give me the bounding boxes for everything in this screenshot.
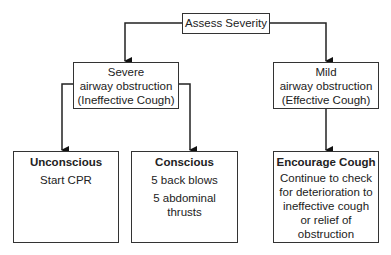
unconscious-title: Unconscious xyxy=(14,155,118,169)
mild-obstruction-node: Mild airway obstruction (Effective Cough… xyxy=(273,62,379,109)
severe-obstruction-node: Severe airway obstruction (Ineffective C… xyxy=(73,62,179,109)
unconscious-node: Unconscious Start CPR xyxy=(13,151,119,243)
mild-label-line: airway obstruction xyxy=(274,79,378,93)
mild-label-line: (Effective Cough) xyxy=(274,93,378,107)
encourage-cough-line: obstruction xyxy=(274,227,378,241)
encourage-cough-line: or relief of xyxy=(274,213,378,227)
encourage-cough-line: ineffective cough xyxy=(274,199,378,213)
severe-label-line: airway obstruction xyxy=(74,79,178,93)
conscious-action: 5 back blows xyxy=(132,173,237,187)
unconscious-action: Start CPR xyxy=(14,173,118,187)
severe-label-line: Severe xyxy=(74,65,178,79)
encourage-cough-title: Encourage Cough xyxy=(274,155,378,169)
encourage-cough-line: for deterioration to xyxy=(274,185,378,199)
conscious-action: 5 abdominal thrusts xyxy=(132,191,237,219)
severe-label-line: (Ineffective Cough) xyxy=(74,93,178,107)
encourage-cough-line: Continue to check xyxy=(274,171,378,185)
conscious-title: Conscious xyxy=(132,155,237,169)
mild-label-line: Mild xyxy=(274,65,378,79)
assess-severity-node: Assess Severity xyxy=(182,13,270,34)
encourage-cough-node: Encourage Cough Continue to check for de… xyxy=(273,151,379,243)
assess-severity-label: Assess Severity xyxy=(185,17,267,29)
conscious-node: Conscious 5 back blows 5 abdominal thrus… xyxy=(131,151,238,243)
